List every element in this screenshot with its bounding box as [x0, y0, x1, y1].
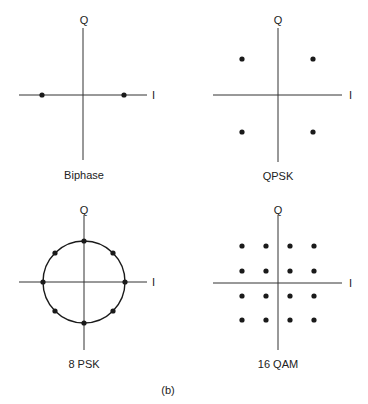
constellation-point	[110, 250, 115, 255]
q-axis-label: Q	[80, 14, 89, 26]
panel-title: 16 QAM	[258, 358, 298, 370]
panel-title: Biphase	[64, 169, 104, 181]
figure-label: (b)	[161, 384, 174, 396]
constellation-diagrams: Q I Biphase Q I QPSK Q I 8 PSK	[0, 0, 368, 404]
16qam-panel: Q I 16 QAM	[213, 204, 352, 370]
i-axis-label: I	[349, 89, 352, 101]
q-axis-label: Q	[274, 204, 283, 216]
constellation-point	[310, 129, 315, 134]
constellation-point	[239, 129, 244, 134]
constellation-point	[81, 238, 86, 243]
q-axis-label: Q	[80, 204, 89, 216]
constellation-point	[40, 279, 45, 284]
panel-title: QPSK	[263, 170, 294, 182]
constellation-point	[52, 308, 57, 313]
8psk-panel: Q I 8 PSK	[19, 204, 155, 370]
constellation-point	[81, 320, 86, 325]
i-axis-label: I	[152, 276, 155, 288]
constellation-point	[110, 308, 115, 313]
i-axis-label: I	[152, 89, 155, 101]
constellation-point	[310, 56, 315, 61]
panel-title: 8 PSK	[68, 358, 100, 370]
constellation-point	[122, 279, 127, 284]
i-axis-label: I	[349, 277, 352, 289]
q-axis-label: Q	[274, 14, 283, 26]
constellation-point	[121, 92, 126, 97]
constellation-point	[39, 92, 44, 97]
constellation-point	[239, 56, 244, 61]
biphase-panel: Q I Biphase	[19, 14, 155, 181]
constellation-point	[52, 250, 57, 255]
qpsk-panel: Q I QPSK	[213, 14, 352, 182]
